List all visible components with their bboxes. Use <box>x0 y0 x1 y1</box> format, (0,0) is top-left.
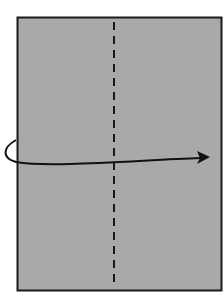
fold-diagram <box>0 0 224 303</box>
paper-sheet <box>18 18 222 291</box>
